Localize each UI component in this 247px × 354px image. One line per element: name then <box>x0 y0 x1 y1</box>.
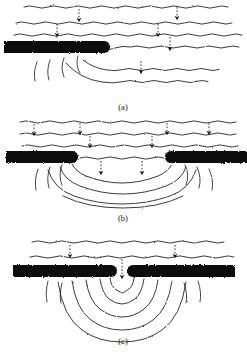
barrier-rounded-edge <box>66 151 78 163</box>
barrier-body <box>133 265 235 277</box>
panel-b-caption: (b) <box>118 213 128 223</box>
barrier-rounded-edge <box>165 151 177 163</box>
panel-a-caption: (a) <box>118 102 128 112</box>
barrier-body <box>13 265 111 277</box>
panel-a-barrier-left <box>4 41 110 53</box>
diffraction-figure: (a) <box>0 0 247 354</box>
panel-c-barrier-left <box>13 265 117 277</box>
panel-c-caption: (c) <box>118 336 128 346</box>
barrier-body <box>4 41 105 53</box>
figure-background <box>0 0 247 354</box>
figure-canvas: (a) <box>0 0 247 354</box>
barrier-rounded-edge <box>127 265 139 277</box>
panel-c-barrier-right <box>127 265 235 277</box>
barrier-rounded-edge <box>98 41 110 53</box>
barrier-body <box>6 151 73 163</box>
panel-b-barrier-left <box>6 151 78 163</box>
barrier-body <box>171 151 247 163</box>
barrier-rounded-edge <box>105 265 117 277</box>
panel-b-barrier-right <box>165 151 247 163</box>
